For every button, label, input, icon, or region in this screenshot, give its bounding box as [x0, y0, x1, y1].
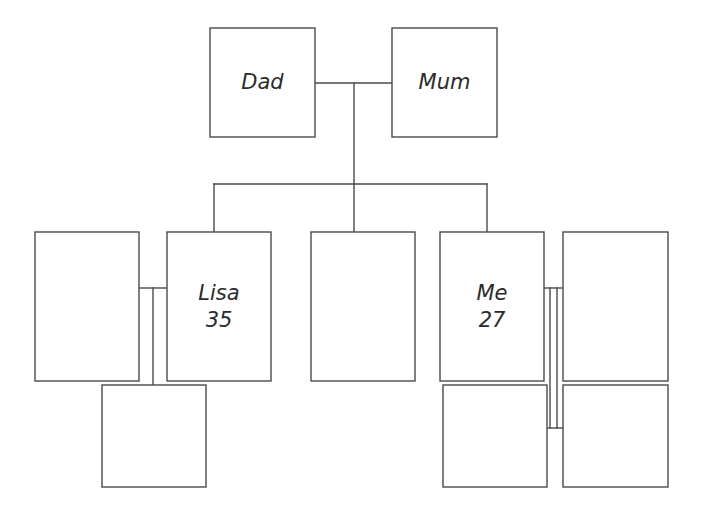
node-age-lisa: 35: [206, 308, 233, 332]
node-label-me: Me: [476, 281, 507, 305]
node-lisa-child[interactable]: [102, 385, 206, 487]
node-lisa-partner[interactable]: [35, 232, 139, 381]
node-lisa[interactable]: Lisa35: [167, 232, 271, 381]
node-label-mum: Mum: [419, 70, 471, 94]
node-dad[interactable]: Dad: [210, 28, 315, 137]
node-me-partner[interactable]: [563, 232, 668, 381]
node-mum[interactable]: Mum: [392, 28, 497, 137]
node-me[interactable]: Me27: [440, 232, 544, 381]
node-box-me-child-2[interactable]: [563, 385, 668, 487]
node-label-dad: Dad: [241, 70, 284, 94]
node-age-me: 27: [479, 308, 506, 332]
node-label-lisa: Lisa: [198, 281, 239, 305]
node-box-lisa-child[interactable]: [102, 385, 206, 487]
node-me-child-1[interactable]: [443, 385, 547, 487]
node-box-me-partner[interactable]: [563, 232, 668, 381]
nodes-layer: DadMumLisa35Me27: [35, 28, 668, 487]
node-box-me-child-1[interactable]: [443, 385, 547, 487]
node-box-sibling-middle[interactable]: [311, 232, 415, 381]
node-me-child-2[interactable]: [563, 385, 668, 487]
node-box-me[interactable]: [440, 232, 544, 381]
node-sibling-middle[interactable]: [311, 232, 415, 381]
diagram-canvas: DadMumLisa35Me27: [0, 0, 703, 510]
node-box-lisa[interactable]: [167, 232, 271, 381]
node-box-lisa-partner[interactable]: [35, 232, 139, 381]
family-tree-diagram: DadMumLisa35Me27: [0, 0, 703, 510]
